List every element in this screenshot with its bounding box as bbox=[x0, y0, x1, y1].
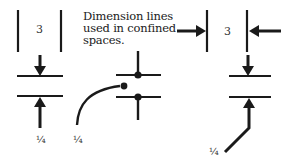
right-dimension-value: 3 bbox=[224, 25, 231, 38]
left-fraction-label: ¼ bbox=[36, 134, 46, 145]
arrow-up-icon bbox=[243, 98, 255, 108]
arrow-down-icon bbox=[34, 66, 46, 76]
right-fraction-label: ¼ bbox=[209, 146, 219, 157]
middle-fraction-label: ¼ bbox=[73, 134, 83, 145]
angled-leader-line bbox=[225, 107, 249, 152]
arrow-left-icon bbox=[249, 25, 259, 37]
diagram-caption: Dimension lines used in confined spaces. bbox=[83, 10, 203, 46]
leader-dot-icon bbox=[121, 83, 128, 90]
left-dimension-value: 3 bbox=[36, 23, 43, 36]
left-vertical-dimension bbox=[17, 55, 63, 128]
middle-dot-dimension bbox=[77, 51, 161, 125]
right-vertical-dimension bbox=[225, 55, 271, 152]
terminator-dot-top-icon bbox=[134, 71, 141, 78]
caption-line-3: spaces. bbox=[83, 34, 203, 46]
curved-leader-line bbox=[77, 86, 120, 125]
arrow-down-icon bbox=[242, 66, 254, 76]
arrow-up-icon bbox=[34, 97, 46, 107]
